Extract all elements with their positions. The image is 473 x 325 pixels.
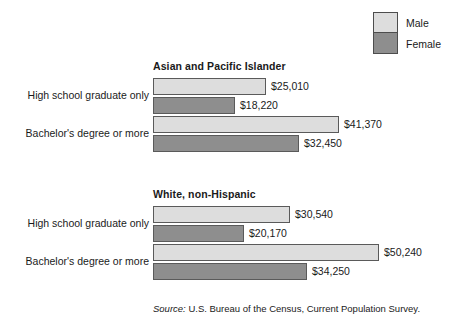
chart-legend: Male Female — [373, 12, 469, 56]
bar-male — [153, 206, 290, 223]
bar-value-label: $41,370 — [344, 118, 382, 131]
group-title: White, non-Hispanic — [153, 188, 256, 200]
bar-male — [153, 78, 266, 95]
bar-value-label: $34,250 — [312, 265, 350, 278]
bar-row-male: $50,240 — [153, 244, 473, 261]
group-title: Asian and Pacific Islander — [153, 60, 286, 72]
category-label: High school graduate only — [28, 217, 149, 230]
source-label: Source: — [153, 303, 186, 314]
category-label: Bachelor's degree or more — [26, 127, 149, 140]
chart-category: Bachelor's degree or more$50,240$34,250 — [0, 244, 473, 282]
bar-female — [153, 263, 307, 280]
source-note: Source: U.S. Bureau of the Census, Curre… — [153, 303, 420, 315]
legend-label-male: Male — [406, 17, 429, 29]
bar-male — [153, 244, 379, 261]
bar-row-female: $34,250 — [153, 263, 473, 280]
legend-swatch-male — [374, 13, 397, 33]
bar-value-label: $30,540 — [295, 208, 333, 221]
legend-swatch-female — [374, 33, 397, 53]
chart-group: White, non-HispanicHigh school graduate … — [0, 188, 473, 298]
bar-row-male: $30,540 — [153, 206, 473, 223]
bar-row-male: $41,370 — [153, 116, 473, 133]
source-text: U.S. Bureau of the Census, Current Popul… — [186, 303, 420, 314]
grouped-bar-chart: Male Female Asian and Pacific IslanderHi… — [0, 0, 473, 325]
bar-row-male: $25,010 — [153, 78, 473, 95]
bar-row-female: $20,170 — [153, 225, 473, 242]
bar-female — [153, 225, 244, 242]
bar-value-label: $18,220 — [240, 99, 278, 112]
chart-group: Asian and Pacific IslanderHigh school gr… — [0, 60, 473, 170]
category-label: Bachelor's degree or more — [26, 255, 149, 268]
bar-value-label: $20,170 — [249, 227, 287, 240]
bar-row-female: $18,220 — [153, 97, 473, 114]
category-label: High school graduate only — [28, 89, 149, 102]
legend-swatch-stack — [373, 12, 398, 54]
bar-female — [153, 97, 235, 114]
bar-row-female: $32,450 — [153, 135, 473, 152]
chart-category: High school graduate only$25,010$18,220 — [0, 78, 473, 116]
bar-value-label: $50,240 — [384, 246, 422, 259]
chart-category: High school graduate only$30,540$20,170 — [0, 206, 473, 244]
bar-female — [153, 135, 299, 152]
chart-category: Bachelor's degree or more$41,370$32,450 — [0, 116, 473, 154]
legend-label-female: Female — [406, 38, 441, 50]
bar-male — [153, 116, 339, 133]
bar-value-label: $32,450 — [304, 137, 342, 150]
bar-value-label: $25,010 — [271, 80, 309, 93]
